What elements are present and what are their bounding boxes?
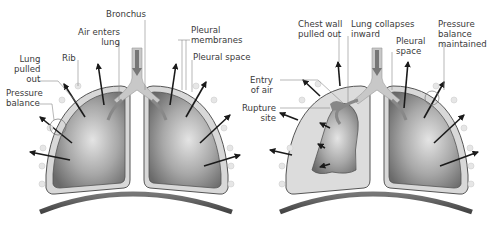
label-air-enters-lung: Air enters lung — [78, 27, 120, 47]
label-rupture-site: Rupture site — [242, 103, 276, 123]
right-panel-collapsed-lung — [270, 36, 478, 212]
diaphragm-right — [280, 194, 472, 212]
label-rib: Rib — [62, 53, 76, 63]
label-entry-of-air: Entry of air — [250, 75, 273, 95]
label-pleural-membranes: Pleural membranes — [191, 25, 243, 45]
label-lung-pulled-out: Lung pulled out — [14, 54, 40, 84]
label-pleural-space-left: Pleural space — [193, 52, 250, 62]
label-pleural-space-right: Pleural space — [396, 36, 426, 56]
label-pressure-balance: Pressure balance — [6, 88, 43, 108]
label-pressure-balance-maintained: Pressure balance maintained — [438, 19, 487, 49]
label-bronchus: Bronchus — [106, 9, 146, 19]
diaphragm-left — [40, 194, 232, 212]
left-panel-normal-lung — [30, 20, 240, 212]
label-chest-wall-pulled-out: Chest wall pulled out — [298, 19, 342, 39]
